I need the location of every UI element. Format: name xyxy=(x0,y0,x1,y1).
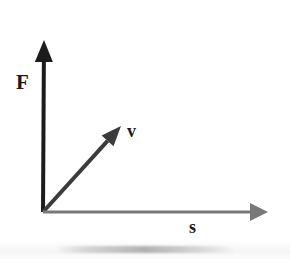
vector-diagram-figure: F v s xyxy=(0,0,290,259)
velocity-vector xyxy=(43,126,121,212)
velocity-label: v xyxy=(127,122,136,140)
displacement-label: s xyxy=(189,218,196,236)
displacement-vector xyxy=(43,203,268,221)
force-vector-shaft xyxy=(43,62,44,212)
displacement-vector-arrowhead xyxy=(250,203,268,221)
vector-diagram-canvas xyxy=(0,0,290,259)
velocity-vector-shaft xyxy=(43,141,108,212)
force-vector xyxy=(35,40,53,212)
force-label: F xyxy=(16,72,29,93)
force-vector-arrowhead xyxy=(35,40,53,62)
